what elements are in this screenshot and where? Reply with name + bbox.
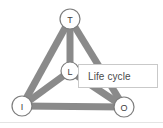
life-cycle-tooltip[interactable]: Life cycle (78, 64, 158, 88)
diagram-canvas: TLIO Life cycle (0, 0, 163, 128)
nodes-group: TLIO (12, 9, 134, 117)
node-o-label: O (120, 103, 127, 113)
node-l[interactable]: L (61, 62, 79, 80)
edge-t-i (22, 19, 70, 106)
node-o[interactable]: O (114, 97, 134, 117)
node-t-label: T (67, 15, 73, 25)
tooltip-label: Life cycle (79, 71, 131, 82)
bottom-divider (0, 122, 163, 123)
node-i[interactable]: I (12, 96, 32, 116)
node-i-label: I (21, 102, 24, 112)
node-t[interactable]: T (60, 9, 80, 29)
edge-t-o (70, 19, 124, 107)
node-l-label: L (67, 67, 72, 77)
edge-i-o (22, 106, 124, 107)
